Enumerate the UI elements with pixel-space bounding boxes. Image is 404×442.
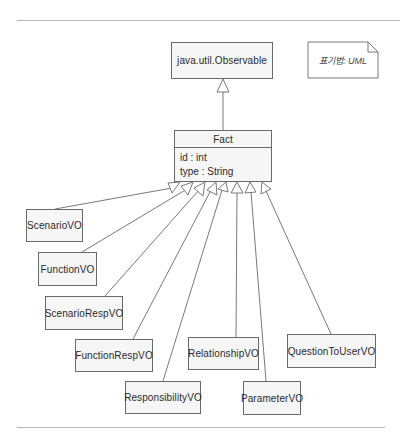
class-attributes: id : int type : String <box>175 148 271 179</box>
attribute-id: id : int <box>180 151 271 165</box>
class-name: ScenarioVO <box>27 220 82 231</box>
class-name: ParameterVO <box>241 393 303 404</box>
notation-note: 표기법: UML <box>308 42 378 78</box>
class-responsibilityvo: ResponsibilityVO <box>125 381 201 414</box>
class-name: java.util.Observable <box>177 55 267 66</box>
class-name: Fact <box>175 131 271 148</box>
class-name: ResponsibilityVO <box>124 392 202 403</box>
class-functionvo: FunctionVO <box>38 252 97 286</box>
class-parametervo: ParameterVO <box>243 381 301 415</box>
class-name: FunctionVO <box>41 264 95 275</box>
class-name: FunctionRespVO <box>75 350 153 361</box>
class-java-util-observable: java.util.Observable <box>171 42 273 79</box>
class-scenariovo: ScenarioVO <box>26 209 83 242</box>
class-name: ScenarioRespVO <box>45 308 124 319</box>
class-questiontouservo: QuestionToUserVO <box>287 334 376 368</box>
note-text: 표기법: UML <box>319 54 367 67</box>
class-fact: Fact id : int type : String <box>174 130 272 182</box>
class-functionrespvo: FunctionRespVO <box>75 339 153 372</box>
class-name: QuestionToUserVO <box>288 346 376 357</box>
class-scenariorespvo: ScenarioRespVO <box>45 296 123 330</box>
class-relationshipvo: RelationshipVO <box>188 337 259 370</box>
attribute-type: type : String <box>180 165 271 179</box>
class-name: RelationshipVO <box>188 348 259 359</box>
